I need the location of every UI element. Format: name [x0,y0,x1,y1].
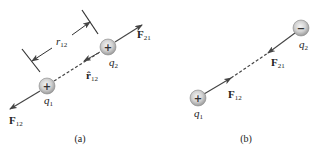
force-arrow-f12 [204,78,231,94]
unit-vector-label: r̂12 [86,69,98,83]
positive-sign-icon: + [104,42,112,53]
force-label-f21: F21 [137,28,151,42]
charge-q1: + [190,90,206,106]
force-label-f21: F21 [271,56,285,70]
negative-sign-icon: − [297,23,305,34]
distance-label: r12 [56,35,68,49]
positive-sign-icon: + [43,81,51,92]
charge-label-q1: q1 [44,94,54,108]
unit-vector-arrow [84,52,100,61]
force-label-f12: F12 [228,88,242,102]
force-arrow-f12 [10,91,40,109]
dimension-arrow-left [32,48,52,61]
panel-b: F12 F21 + q1 − q2 (b) [190,20,309,145]
force-arrow-f21 [268,33,295,53]
panel-a: r12 r̂12 F12 F21 + q1 + q2 [9,10,151,145]
charge-label-q2: q2 [109,56,119,70]
charge-label-q2: q2 [299,38,309,52]
charge-q1: + [39,78,55,94]
charge-q2: + [100,39,116,55]
separation-line [231,53,268,78]
force-label-f12: F12 [9,114,23,128]
positive-sign-icon: + [194,93,202,104]
coulomb-force-diagram: r12 r̂12 F12 F21 + q1 + q2 [0,0,319,151]
charge-q2: − [293,20,309,36]
panel-b-caption: (b) [240,133,252,145]
charge-label-q1: q1 [194,107,204,121]
dimension-arrow-right [72,22,90,35]
panel-a-caption: (a) [74,133,85,145]
dimension-tick-left [22,49,40,72]
